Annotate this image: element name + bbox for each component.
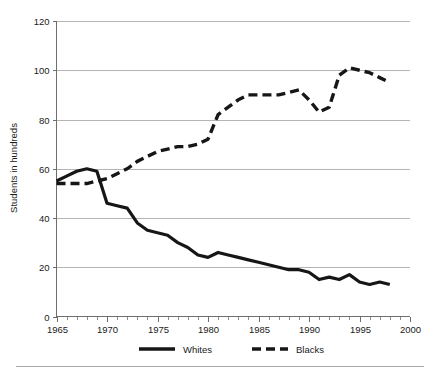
x-tick-label-1970: 1970 xyxy=(97,324,118,335)
x-tick-label-2000: 2000 xyxy=(400,324,421,335)
x-tick-label-1985: 1985 xyxy=(249,324,270,335)
x-tick-label-1975: 1975 xyxy=(148,324,169,335)
chart-legend: WhitesBlacks xyxy=(139,344,324,355)
series-line-blacks xyxy=(57,68,390,184)
y-tick-label-100: 100 xyxy=(34,65,50,76)
x-tick-label-1990: 1990 xyxy=(299,324,320,335)
x-tick-label-1995: 1995 xyxy=(350,324,371,335)
y-tick-label-20: 20 xyxy=(39,262,50,273)
y-tick-label-60: 60 xyxy=(39,164,50,175)
y-tick-label-120: 120 xyxy=(34,16,50,27)
series-layer xyxy=(57,68,390,285)
gridlines-group xyxy=(57,22,411,268)
chart-figure: 020406080100120 196519701975198019851990… xyxy=(0,0,438,377)
line-chart: 020406080100120 196519701975198019851990… xyxy=(0,0,438,377)
x-tick-label-1965: 1965 xyxy=(47,324,68,335)
y-axis-ticks-group: 020406080100120 xyxy=(34,16,57,323)
y-tick-label-80: 80 xyxy=(39,115,50,126)
y-tick-label-40: 40 xyxy=(39,213,50,224)
legend-label-whites: Whites xyxy=(183,344,212,355)
y-axis-title: Students in hundreds xyxy=(8,123,19,213)
x-axis-ticks-group: 19651970197519801985199019952000 xyxy=(47,317,421,335)
x-tick-label-1980: 1980 xyxy=(198,324,219,335)
legend-label-blacks: Blacks xyxy=(296,344,324,355)
y-tick-label-0: 0 xyxy=(44,312,49,323)
